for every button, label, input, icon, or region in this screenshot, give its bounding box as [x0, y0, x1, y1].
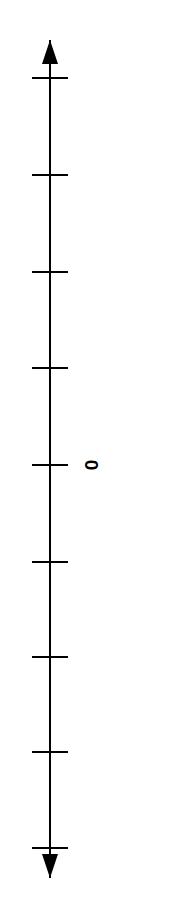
arrow-down-icon	[42, 854, 58, 878]
number-line-figure: 0	[0, 0, 170, 919]
tick-label-zero: 0	[82, 460, 101, 471]
arrow-up-icon	[42, 40, 58, 64]
